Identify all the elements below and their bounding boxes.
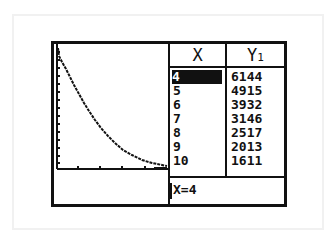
column-x: X 4 5 6 7 8 9 10 <box>170 44 225 178</box>
cursor-icon <box>170 183 172 199</box>
table-cell-y[interactable]: 2517 <box>231 126 283 140</box>
calculator-screen: X 4 5 6 7 8 9 10 Y1 6144 4915 3932 3146 … <box>51 41 287 207</box>
table-cell-x-selected[interactable]: 4 <box>172 70 222 84</box>
header-y-label: Y <box>247 45 257 65</box>
table-cell-y[interactable]: 3932 <box>231 98 283 112</box>
value-table: X 4 5 6 7 8 9 10 Y1 6144 4915 3932 3146 … <box>170 44 284 178</box>
header-divider <box>170 66 284 68</box>
header-y-subscript: 1 <box>257 51 264 64</box>
table-cell-x[interactable]: 7 <box>173 112 223 126</box>
status-text: X=4 <box>173 182 196 197</box>
column-y1: Y1 6144 4915 3932 3146 2517 2013 1611 <box>227 44 284 178</box>
column-header-x: X <box>170 45 225 65</box>
table-cell-y[interactable]: 6144 <box>231 70 283 84</box>
table-cell-x[interactable]: 5 <box>173 84 223 98</box>
table-cell-x[interactable]: 10 <box>173 154 223 168</box>
table-bottom-divider <box>170 176 284 178</box>
status-line: X=4 <box>170 180 196 200</box>
graph-panel <box>54 44 168 173</box>
table-cell-x[interactable]: 8 <box>173 126 223 140</box>
table-cell-x[interactable]: 9 <box>173 140 223 154</box>
table-cell-y[interactable]: 1611 <box>231 154 283 168</box>
decay-curve-graph <box>54 44 168 173</box>
column-header-y1: Y1 <box>227 45 284 65</box>
table-cell-x[interactable]: 6 <box>173 98 223 112</box>
table-cell-y[interactable]: 2013 <box>231 140 283 154</box>
table-cell-y[interactable]: 3146 <box>231 112 283 126</box>
table-cell-y[interactable]: 4915 <box>231 84 283 98</box>
